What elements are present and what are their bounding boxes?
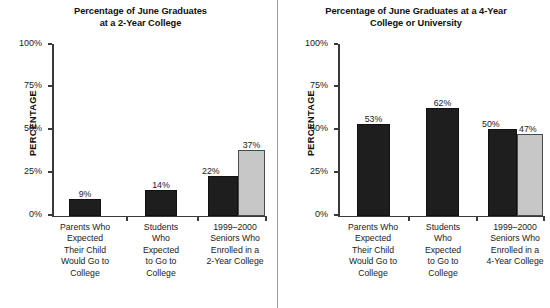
bar-value-seniors-dark: 22% bbox=[202, 166, 220, 176]
x-label-students-4-year-line-5: College bbox=[410, 268, 476, 279]
y-tick-label-25-4-year: 25% bbox=[310, 166, 328, 176]
chart-title-line-2: at a 2-Year College bbox=[10, 17, 271, 29]
bar-value-seniors-light: 37% bbox=[239, 140, 264, 150]
chart-page: Percentage of June Graduates at a 2-Year… bbox=[0, 0, 550, 308]
x-tick-group-3-4-year bbox=[543, 217, 545, 221]
x-label-parents-4-year-line-5: College bbox=[334, 268, 412, 279]
x-label-parents-4-year-line-4: Would Go to bbox=[334, 256, 412, 267]
x-label-seniors-4-year: 1999–2000 Seniors Who Enrolled in a 4-Ye… bbox=[476, 222, 550, 268]
bar-value-parents-4-year: 53% bbox=[358, 114, 389, 124]
bar-dark-parents-4-year[interactable]: 53% bbox=[357, 124, 390, 216]
x-label-students-line-2: Who bbox=[128, 233, 194, 244]
x-axis-category-labels-4-year: Parents Who Expected Their Child Would G… bbox=[338, 222, 545, 302]
y-tick-label-0-4-year: 0% bbox=[315, 209, 328, 219]
y-tick-100-4-year: 100% bbox=[334, 43, 338, 45]
x-label-seniors-4-year-line-4: 4-Year College bbox=[476, 256, 550, 267]
y-tick-0-4-year: 0% bbox=[334, 214, 338, 216]
x-label-students-4-year: Students Who Expected to Go to College bbox=[410, 222, 476, 279]
x-tick-group-2-4-year bbox=[476, 217, 478, 221]
y-tick-label-50: 50% bbox=[24, 123, 42, 133]
x-axis-line-4-year bbox=[338, 216, 545, 218]
x-label-parents-line-2: Expected bbox=[46, 233, 124, 244]
bar-value-parents: 9% bbox=[70, 189, 100, 199]
y-tick-label-100-4-year: 100% bbox=[305, 38, 328, 48]
x-label-seniors-4-year-line-1: 1999–2000 bbox=[476, 222, 550, 233]
x-label-seniors-line-2: Seniors Who bbox=[196, 233, 274, 244]
x-label-students: Students Who Expected to Go to College bbox=[128, 222, 194, 279]
y-tick-label-75-4-year: 75% bbox=[310, 80, 328, 90]
bar-dark-seniors-4-year[interactable]: 50% bbox=[488, 129, 517, 216]
x-label-seniors: 1999–2000 Seniors Who Enrolled in a 2-Ye… bbox=[196, 222, 274, 268]
y-tick-0: 0% bbox=[48, 214, 52, 216]
x-label-parents-4-year: Parents Who Expected Their Child Would G… bbox=[334, 222, 412, 279]
x-label-seniors-line-4: 2-Year College bbox=[196, 256, 274, 267]
y-tick-label-100: 100% bbox=[19, 38, 42, 48]
y-tick-75-4-year: 75% bbox=[334, 85, 338, 87]
bar-value-students-4-year: 62% bbox=[427, 98, 458, 108]
x-label-students-4-year-line-2: Who bbox=[410, 233, 476, 244]
x-tick-group-1 bbox=[126, 217, 128, 221]
chart-title-2-year: Percentage of June Graduates at a 2-Year… bbox=[10, 5, 271, 30]
y-tick-label-0: 0% bbox=[29, 209, 42, 219]
x-label-students-line-4: to Go to bbox=[128, 256, 194, 267]
x-label-students-line-1: Students bbox=[128, 222, 194, 233]
x-label-parents-4-year-line-1: Parents Who bbox=[334, 222, 412, 233]
bar-value-seniors-light-4-year: 47% bbox=[519, 124, 537, 134]
x-label-parents: Parents Who Expected Their Child Would G… bbox=[46, 222, 124, 279]
x-label-seniors-line-3: Enrolled in a bbox=[196, 245, 274, 256]
x-axis-line bbox=[52, 216, 267, 218]
chart-panel-4-year: Percentage of June Graduates at a 4-Year… bbox=[278, 0, 550, 308]
bar-value-students: 14% bbox=[146, 180, 176, 190]
bar-dark-parents[interactable]: 9% bbox=[69, 199, 101, 216]
bar-light-seniors-4-year[interactable]: 47% bbox=[517, 134, 543, 216]
chart-title-4-year-line-2: College or University bbox=[288, 17, 544, 29]
x-label-seniors-4-year-line-3: Enrolled in a bbox=[476, 245, 550, 256]
x-label-students-4-year-line-3: Expected bbox=[410, 245, 476, 256]
y-tick-100: 100% bbox=[48, 43, 52, 45]
y-axis-line-4-year bbox=[338, 44, 340, 217]
y-tick-label-25: 25% bbox=[24, 166, 42, 176]
x-label-parents-4-year-line-2: Expected bbox=[334, 233, 412, 244]
chart-title-4-year: Percentage of June Graduates at a 4-Year… bbox=[288, 5, 544, 30]
chart-title-line-1: Percentage of June Graduates bbox=[10, 5, 271, 17]
x-label-parents-line-5: College bbox=[46, 268, 124, 279]
x-label-students-line-3: Expected bbox=[128, 245, 194, 256]
x-label-students-line-5: College bbox=[128, 268, 194, 279]
plot-area-2-year: 0% 25% 50% 75% 100% 9% 14% bbox=[52, 44, 267, 217]
x-tick-group-1-4-year bbox=[408, 217, 410, 221]
y-tick-50: 50% bbox=[48, 128, 52, 130]
x-label-parents-4-year-line-3: Their Child bbox=[334, 245, 412, 256]
bar-dark-students[interactable]: 14% bbox=[145, 190, 177, 216]
x-label-seniors-4-year-line-2: Seniors Who bbox=[476, 233, 550, 244]
chart-panel-2-year: Percentage of June Graduates at a 2-Year… bbox=[0, 0, 277, 308]
plot-area-4-year: 0% 25% 50% 75% 100% 53% 62% bbox=[338, 44, 545, 217]
x-tick-group-3 bbox=[265, 217, 267, 221]
y-tick-25-4-year: 25% bbox=[334, 171, 338, 173]
bar-value-seniors-dark-4-year: 50% bbox=[482, 119, 500, 129]
y-axis-line bbox=[52, 44, 54, 217]
x-label-parents-line-1: Parents Who bbox=[46, 222, 124, 233]
chart-title-4-year-line-1: Percentage of June Graduates at a 4-Year bbox=[288, 5, 544, 17]
y-tick-75: 75% bbox=[48, 85, 52, 87]
x-label-parents-line-4: Would Go to bbox=[46, 256, 124, 267]
y-tick-25: 25% bbox=[48, 171, 52, 173]
bar-dark-students-4-year[interactable]: 62% bbox=[426, 108, 459, 216]
y-tick-label-50-4-year: 50% bbox=[310, 123, 328, 133]
y-tick-50-4-year: 50% bbox=[334, 128, 338, 130]
x-label-students-4-year-line-1: Students bbox=[410, 222, 476, 233]
y-tick-label-75: 75% bbox=[24, 80, 42, 90]
bar-light-seniors[interactable]: 37% bbox=[238, 150, 265, 215]
x-label-parents-line-3: Their Child bbox=[46, 245, 124, 256]
x-axis-category-labels-2-year: Parents Who Expected Their Child Would G… bbox=[52, 222, 267, 302]
bar-dark-seniors[interactable]: 22% bbox=[208, 176, 238, 215]
x-label-students-4-year-line-4: to Go to bbox=[410, 256, 476, 267]
x-label-seniors-line-1: 1999–2000 bbox=[196, 222, 274, 233]
x-tick-group-2 bbox=[197, 217, 199, 221]
